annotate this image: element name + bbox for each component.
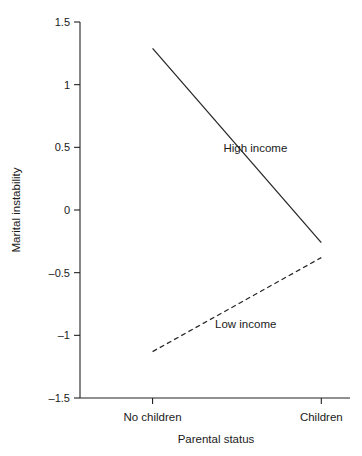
y-axis-title: Marital instability xyxy=(10,167,22,252)
series-label-high-income: High income xyxy=(223,142,287,154)
series-label-low-income: Low income xyxy=(215,318,276,330)
y-tick-label: –1 xyxy=(58,329,70,341)
x-tick-label: No children xyxy=(123,411,181,423)
series-line-low-income xyxy=(153,258,322,352)
chart-figure: 1.510.50–0.5–1–1.5 No childrenChildren M… xyxy=(0,0,362,456)
x-tick-label: Children xyxy=(300,411,343,423)
y-axis-ticks: 1.510.50–0.5–1–1.5 xyxy=(49,16,80,404)
y-tick-label: –1.5 xyxy=(49,392,70,404)
y-tick-label: 1 xyxy=(64,79,70,91)
x-axis-ticks: No childrenChildren xyxy=(123,398,342,423)
y-tick-label: –0.5 xyxy=(49,267,70,279)
clipped-caption-text xyxy=(0,0,362,3)
y-tick-label: 1.5 xyxy=(55,16,70,28)
marital-instability-line-chart: 1.510.50–0.5–1–1.5 No childrenChildren M… xyxy=(0,0,362,456)
x-axis-title: Parental status xyxy=(178,433,255,445)
y-tick-label: 0 xyxy=(64,204,70,216)
y-tick-label: 0.5 xyxy=(55,141,70,153)
